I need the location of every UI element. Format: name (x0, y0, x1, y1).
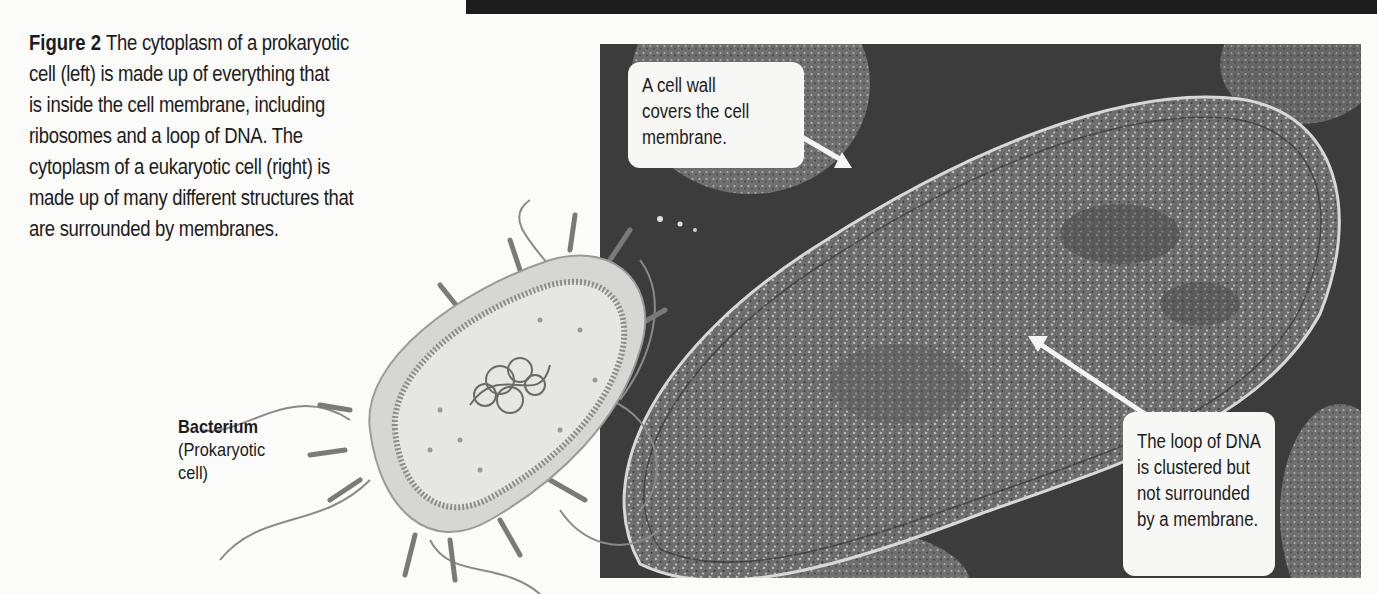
bacterium-illustration (200, 180, 680, 594)
bacterium-subtitle-line: (Prokaryotic (178, 438, 265, 461)
callout-line: is clustered but (1137, 454, 1247, 480)
callout-cell-wall: A cell wall covers the cell membrane. (628, 62, 804, 168)
callout-line: not surrounded (1137, 480, 1247, 506)
figure-label: Figure 2 (29, 31, 101, 55)
caption-line: is inside the cell membrane, including (29, 93, 325, 117)
callout-line: The loop of DNA (1137, 428, 1247, 454)
callout-line: membrane. (642, 124, 773, 150)
callout-line: covers the cell (642, 98, 773, 124)
caption-line: The cytoplasm of a prokaryotic (106, 31, 349, 55)
bacterium-label: Bacterium (Prokaryotic cell) (178, 415, 265, 484)
caption-line: cytoplasm of a eukaryotic cell (right) i… (29, 155, 330, 179)
callout-dna-loop: The loop of DNA is clustered but not sur… (1123, 412, 1275, 576)
callout-line: by a membrane. (1137, 506, 1247, 532)
caption-line: cell (left) is made up of everything tha… (29, 62, 329, 86)
caption-line: ribosomes and a loop of DNA. The (29, 124, 303, 148)
bacterium-subtitle-line: cell) (178, 461, 265, 484)
header-bar (466, 0, 1377, 14)
bacterium-title: Bacterium (178, 415, 265, 438)
callout-line: A cell wall (642, 72, 773, 98)
